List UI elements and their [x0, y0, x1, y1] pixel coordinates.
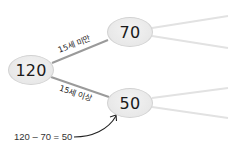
subtraction-annotation: 120 – 70 = 50 [14, 131, 72, 142]
node-15-and-over: 50 [107, 88, 153, 118]
faded-edge-50-upper [152, 88, 228, 98]
node-under-15: 70 [107, 17, 153, 47]
faded-edge-50-lower [152, 107, 228, 118]
faded-edge-70-upper [152, 16, 228, 28]
tree-diagram: 120 70 50 15세 미만 15세 이상 120 – 70 = 50 [0, 0, 245, 150]
annotation-arrow [74, 116, 116, 137]
faded-edge-70-lower [152, 36, 228, 48]
node-root: 120 [8, 55, 54, 85]
